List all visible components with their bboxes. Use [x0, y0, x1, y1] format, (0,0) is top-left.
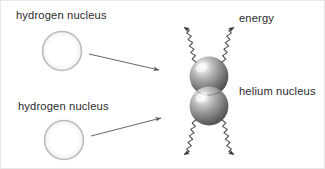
- fusion-arrow-bottom: [91, 118, 161, 136]
- label-helium-nucleus: helium nucleus: [239, 86, 316, 97]
- hydrogen-nucleus-top: [43, 32, 82, 71]
- label-hydrogen-nucleus-bottom: hydrogen nucleus: [18, 101, 109, 112]
- fusion-arrow-top: [89, 54, 159, 70]
- helium-nucleus: [190, 57, 229, 126]
- hydrogen-nucleus-top-circle: [43, 32, 82, 71]
- helium-sphere-lower: [190, 87, 229, 126]
- hydrogen-nucleus-bottom: [45, 121, 84, 160]
- energy-wave-lower-right: [222, 119, 234, 155]
- label-energy: energy: [239, 13, 274, 24]
- energy-wave-upper-right: [222, 27, 234, 63]
- energy-wave-lower-left: [184, 119, 196, 155]
- fusion-diagram: hydrogen nucleus hydrogen nucleus energy…: [0, 0, 325, 169]
- energy-wave-upper-left: [184, 27, 196, 63]
- label-hydrogen-nucleus-top: hydrogen nucleus: [16, 10, 107, 21]
- hydrogen-nucleus-bottom-circle: [45, 121, 84, 160]
